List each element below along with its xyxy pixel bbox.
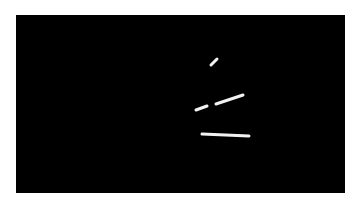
line-segments xyxy=(0,0,360,203)
short-dash-line xyxy=(196,106,207,110)
long-diagonal-line xyxy=(216,95,243,104)
horizontal-bar-line xyxy=(202,134,249,136)
short-diagonal-line xyxy=(211,59,217,65)
